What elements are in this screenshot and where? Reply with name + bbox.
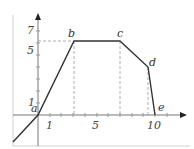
y-axis-arrow-icon (35, 13, 41, 20)
x-axis-arrow-icon (180, 112, 187, 118)
graph-diagram: a b c d e 1 5 10 1 5 7 (0, 0, 194, 149)
x-label-5: 5 (92, 119, 99, 132)
point-label-d: d (149, 56, 156, 69)
y-label-5: 5 (27, 44, 34, 57)
point-label-e: e (158, 101, 165, 114)
piecewise-curve (13, 41, 155, 142)
point-label-c: c (117, 27, 123, 40)
y-label-7: 7 (27, 24, 34, 37)
x-label-10: 10 (147, 119, 161, 132)
point-label-b: b (68, 27, 75, 40)
y-label-1: 1 (28, 96, 35, 109)
x-label-1: 1 (46, 119, 53, 132)
